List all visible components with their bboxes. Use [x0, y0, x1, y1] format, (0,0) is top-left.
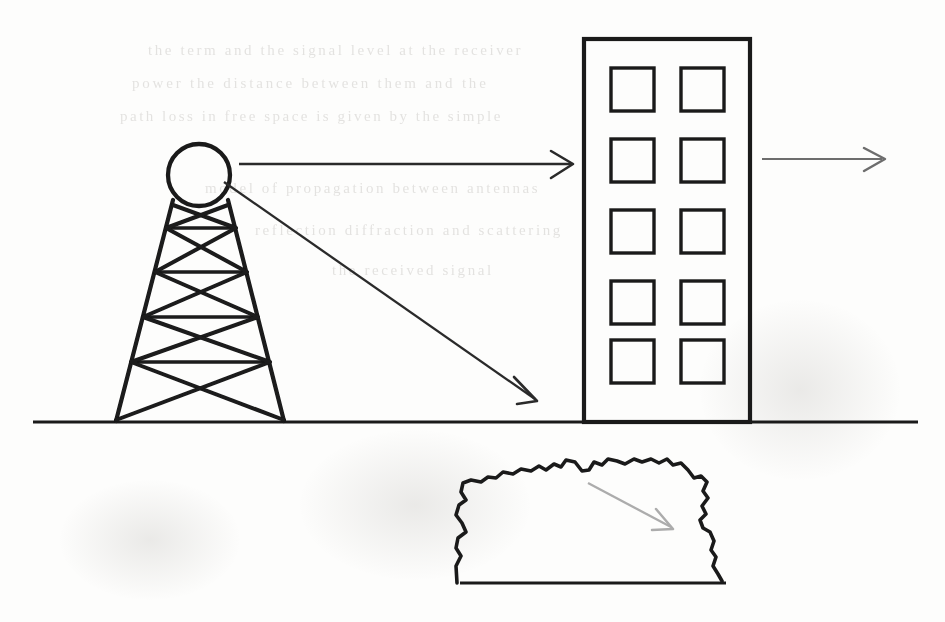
diagram-canvas [0, 0, 945, 622]
tower-leg-right [228, 200, 284, 421]
building-window [681, 139, 724, 182]
antenna-circle [168, 144, 230, 206]
terrain-outline [456, 459, 722, 583]
arrowhead-reflected [514, 377, 537, 404]
receiver-building [584, 39, 750, 422]
scanned-figure-page: the term and the signal level at the rec… [0, 0, 945, 622]
building-window [611, 340, 654, 383]
tower-leg-left [116, 200, 173, 421]
terrain-obstacle [456, 459, 726, 583]
building-window [681, 281, 724, 324]
building-window [681, 210, 724, 253]
building-window [611, 210, 654, 253]
antenna-dish [168, 144, 230, 206]
direct-path-arrow [239, 151, 573, 178]
transmitter-tower [116, 200, 284, 421]
building-window [611, 139, 654, 182]
building-window [611, 281, 654, 324]
building-window [681, 340, 724, 383]
building-window [611, 68, 654, 111]
transmitted-path-arrow [762, 148, 885, 171]
building-window [681, 68, 724, 111]
terrain-scatter-arrow [588, 483, 673, 530]
